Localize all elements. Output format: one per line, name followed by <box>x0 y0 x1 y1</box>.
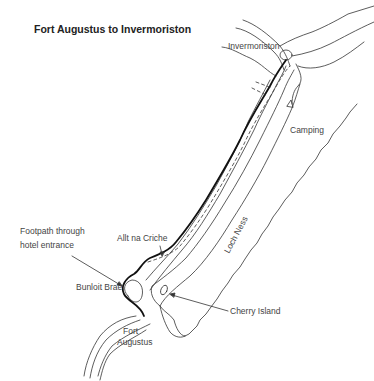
river-moriston-north <box>280 6 374 46</box>
glen-south <box>298 42 364 68</box>
loch-ness-east-shore <box>185 104 357 336</box>
label-cherry-island: Cherry Island <box>230 306 281 317</box>
contour-2 <box>151 70 294 306</box>
arrow-cherry <box>170 293 175 297</box>
label-fort: Fort <box>123 326 138 337</box>
contour-1 <box>160 84 300 336</box>
cherry-island <box>159 284 169 296</box>
river-moriston-south <box>292 22 374 56</box>
label-bunloit-brae: Bunloit Brae <box>76 282 122 293</box>
label-footpath-line1: Footpath through <box>20 226 85 237</box>
label-allt-na-criche: Allt na Criche <box>117 233 168 244</box>
glen-south-hook <box>292 64 301 104</box>
great-glen-way-route <box>123 60 286 316</box>
arrow-allt <box>160 252 164 256</box>
label-footpath-line2: hotel entrance <box>20 240 74 251</box>
hill-top <box>280 50 292 60</box>
label-invermoriston: Invermoriston <box>228 41 280 52</box>
dashed-track <box>148 66 290 262</box>
route-map <box>0 0 374 381</box>
label-augustus: Augustus <box>117 337 152 348</box>
leader-cherry <box>172 295 228 311</box>
label-camping: Camping <box>290 125 324 136</box>
